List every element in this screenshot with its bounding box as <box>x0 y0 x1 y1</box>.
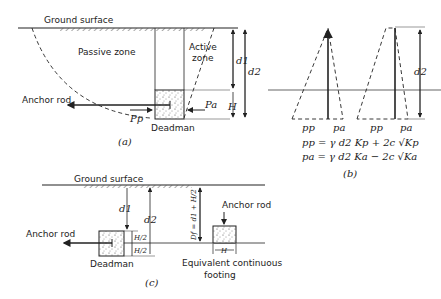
anchor-rod-label-right: Anchor rod <box>222 200 271 210</box>
d1-label-c: d1 <box>119 203 132 214</box>
equivalent-footing-block <box>213 226 236 243</box>
part-c: Ground surface Anchor rod Deadman d1 H/2… <box>26 174 282 288</box>
d2-label-c: d2 <box>144 214 157 225</box>
active-zone-label-1: Active <box>189 42 217 52</box>
caption-c: (c) <box>145 277 159 288</box>
Pp-label: Pp <box>129 113 144 124</box>
equation-pp: pp = γ d2 Kp + 2c √Kp <box>302 137 419 148</box>
Df-label: Df = d1 + H/2 <box>190 189 198 241</box>
anchor-rod-label-c: Anchor rod <box>26 229 75 239</box>
equation-pa: pa = γ d2 Ka − 2c √Ka <box>302 151 417 162</box>
ground-surface-label: Ground surface <box>44 15 114 25</box>
Pa-label: Pa <box>204 99 217 110</box>
pp-label-2: pp <box>370 122 383 133</box>
H-label: H <box>227 101 237 112</box>
d2-label-b: d2 <box>414 66 427 77</box>
active-zone-label-2: zone <box>192 53 214 63</box>
footing-label-1: Equivalent continuous <box>182 258 282 268</box>
H-label-footing: H <box>220 247 228 255</box>
ground-surface-label-c: Ground surface <box>74 174 144 184</box>
caption-b: (b) <box>343 168 357 179</box>
part-b: pp pa pp pa d2 pp = γ d2 Kp + 2c √Kp pa … <box>268 27 441 179</box>
caption-a: (a) <box>118 136 132 147</box>
deadman-anchor-diagram: Ground surface Passive zone Active zone … <box>0 0 441 299</box>
ground-hatch <box>60 28 205 31</box>
d1-label: d1 <box>236 55 249 66</box>
pressure-diagram-2 <box>357 28 408 119</box>
pa-label-1: pa <box>333 122 345 133</box>
pressure-diagram-1 <box>292 28 343 119</box>
d2-label: d2 <box>248 66 261 77</box>
pp-label-1: pp <box>302 122 315 133</box>
deadman-label: Deadman <box>151 123 195 133</box>
H-half-label-1: H/2 <box>133 234 147 242</box>
part-a: Ground surface Passive zone Active zone … <box>18 15 261 147</box>
passive-zone-label: Passive zone <box>78 47 136 57</box>
H-half-label-2: H/2 <box>133 247 147 255</box>
deadman-label-c: Deadman <box>90 259 134 269</box>
anchor-rod-label: Anchor rod <box>22 95 71 105</box>
ground-hatch-c <box>82 185 192 188</box>
footing-label-2: footing <box>204 270 236 280</box>
pa-label-2: pa <box>400 122 412 133</box>
